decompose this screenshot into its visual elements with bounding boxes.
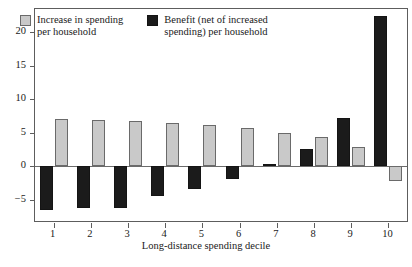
legend-swatch-spending-icon bbox=[20, 15, 31, 26]
plot-area bbox=[35, 9, 407, 221]
chart-figure: Increase in spending per household Benef… bbox=[0, 0, 412, 267]
y-axis-tick-label: 15 bbox=[0, 60, 26, 70]
y-axis-tick-label: 10 bbox=[0, 93, 26, 103]
x-axis-tick-label: 6 bbox=[224, 228, 254, 239]
legend-label-benefit: Benefit (net of increased spending) per … bbox=[164, 14, 268, 38]
bar-benefit-decile-4 bbox=[151, 166, 164, 195]
bar-benefit-decile-1 bbox=[40, 166, 53, 209]
bar-benefit-decile-2 bbox=[77, 166, 90, 207]
y-axis-tick-label: 0 bbox=[0, 160, 26, 170]
bar-benefit-decile-3 bbox=[114, 166, 127, 208]
y-axis-tick-label: 5 bbox=[0, 127, 26, 137]
bar-spending-decile-6 bbox=[241, 128, 254, 166]
bar-spending-decile-9 bbox=[352, 147, 365, 166]
y-axis-tick bbox=[30, 166, 35, 167]
legend-entry-benefit: Benefit (net of increased spending) per … bbox=[147, 14, 268, 38]
legend-label-spending: Increase in spending per household bbox=[37, 14, 123, 38]
x-axis-tick-label: 1 bbox=[38, 228, 68, 239]
chart-legend: Increase in spending per household Benef… bbox=[20, 14, 268, 38]
bar-spending-decile-2 bbox=[92, 120, 105, 166]
x-axis-tick-label: 10 bbox=[372, 228, 402, 239]
legend-entry-spending: Increase in spending per household bbox=[20, 14, 123, 38]
bar-spending-decile-10 bbox=[389, 166, 402, 181]
x-axis-title: Long-distance spending decile bbox=[0, 240, 412, 251]
y-axis-tick-label: 20 bbox=[0, 26, 26, 36]
plot-frame bbox=[34, 8, 408, 222]
x-axis-tick-label: 9 bbox=[335, 228, 365, 239]
bar-spending-decile-5 bbox=[203, 125, 216, 166]
zero-baseline bbox=[35, 166, 407, 167]
bar-spending-decile-7 bbox=[278, 133, 291, 166]
bar-spending-decile-3 bbox=[129, 121, 142, 166]
y-axis-tick bbox=[30, 133, 35, 134]
bar-spending-decile-1 bbox=[55, 119, 68, 166]
y-axis-tick bbox=[30, 66, 35, 67]
bar-spending-decile-4 bbox=[166, 123, 179, 166]
bar-benefit-decile-5 bbox=[188, 166, 201, 189]
bar-benefit-decile-7 bbox=[263, 164, 276, 166]
x-axis-tick-label: 2 bbox=[75, 228, 105, 239]
y-axis-tick bbox=[30, 99, 35, 100]
bar-benefit-decile-6 bbox=[226, 166, 239, 179]
y-axis-tick bbox=[30, 200, 35, 201]
y-axis-tick-label: −5 bbox=[0, 194, 26, 204]
bar-benefit-decile-10 bbox=[374, 16, 387, 166]
legend-swatch-benefit-icon bbox=[147, 15, 158, 26]
x-axis-tick-label: 7 bbox=[261, 228, 291, 239]
x-axis-tick-label: 3 bbox=[112, 228, 142, 239]
x-axis-tick-label: 4 bbox=[149, 228, 179, 239]
x-axis-tick-label: 8 bbox=[298, 228, 328, 239]
bar-benefit-decile-8 bbox=[300, 149, 313, 166]
x-axis-tick-label: 5 bbox=[186, 228, 216, 239]
bar-benefit-decile-9 bbox=[337, 118, 350, 166]
bar-spending-decile-8 bbox=[315, 137, 328, 166]
